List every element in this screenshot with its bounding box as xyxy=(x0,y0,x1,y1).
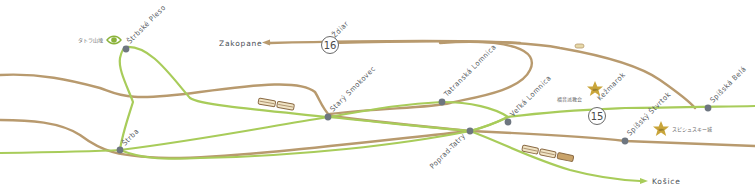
road-zdiar-spisska-bela xyxy=(330,41,695,108)
label-strbske-pleso: Štrbské Pleso xyxy=(125,3,167,45)
road-west-upper xyxy=(0,75,330,116)
rail-tatranska-poprad xyxy=(442,102,508,131)
label-spissky-stvrtok: Spišský Štvrtok xyxy=(625,90,673,138)
world-heritage-star-icon: WH xyxy=(653,121,669,136)
route-number-16: 16 xyxy=(324,40,337,51)
label-tatranska-lomnica: Tatranská Lomnica xyxy=(441,42,498,99)
route-number-15: 15 xyxy=(591,111,604,122)
railway-road-map: Štrbské Pleso Štrba Starý Smokovec Tatra… xyxy=(0,0,755,189)
train-icon-west xyxy=(258,98,294,110)
roads xyxy=(0,40,755,159)
arrow-left-icon xyxy=(262,40,270,46)
station-poprad-tatry[interactable] xyxy=(467,128,474,135)
train-icon-east xyxy=(522,145,574,162)
label-kosice: Košice xyxy=(652,177,681,186)
car-icon xyxy=(575,44,584,48)
label-strba: Štrba xyxy=(120,127,141,148)
label-zakopane: Zakopane xyxy=(219,39,263,48)
poi-spis-castle[interactable]: WH スピシュスキー城 xyxy=(653,121,712,136)
station-strbske-pleso[interactable] xyxy=(123,46,130,53)
arrow-right-icon xyxy=(640,178,648,184)
station-spisska-bela[interactable] xyxy=(705,105,712,112)
badge-wh: WH xyxy=(592,88,597,92)
label-kezmarok: Kežmarok xyxy=(595,70,627,102)
badge-wh: WH xyxy=(658,128,663,132)
label-stary-smokovec: Starý Smokovec xyxy=(328,64,377,113)
rail-strba-poprad xyxy=(120,131,470,159)
label-zdiar: Ždiar xyxy=(330,19,350,39)
poi-evangelical-church[interactable]: WH 福音派教会 xyxy=(557,81,603,103)
station-tatranska-lomnica[interactable] xyxy=(439,99,446,106)
label-spis-castle: スピシュスキー城 xyxy=(672,126,712,133)
station-labels: Štrbské Pleso Štrba Starý Smokovec Tatra… xyxy=(120,3,748,171)
poi-tatra-viewpoint[interactable]: タトラ山塊 xyxy=(78,36,121,44)
station-velka-lomnica[interactable] xyxy=(505,119,512,126)
label-tatra-viewpoint: タトラ山塊 xyxy=(78,37,103,44)
rail-strbske-pleso-smokovec xyxy=(126,47,328,117)
rail-smokovec-poprad xyxy=(328,117,470,131)
label-spisska-bela: Spišská Belá xyxy=(708,64,748,104)
station-strba[interactable] xyxy=(117,147,124,154)
route-badge-16: 16 xyxy=(322,37,339,54)
route-badge-15: 15 xyxy=(589,108,606,125)
station-stary-smokovec[interactable] xyxy=(325,114,332,121)
eye-icon xyxy=(107,36,121,44)
label-evangelical-church: 福音派教会 xyxy=(557,96,582,103)
station-spissky-stvrtok[interactable] xyxy=(622,138,629,145)
